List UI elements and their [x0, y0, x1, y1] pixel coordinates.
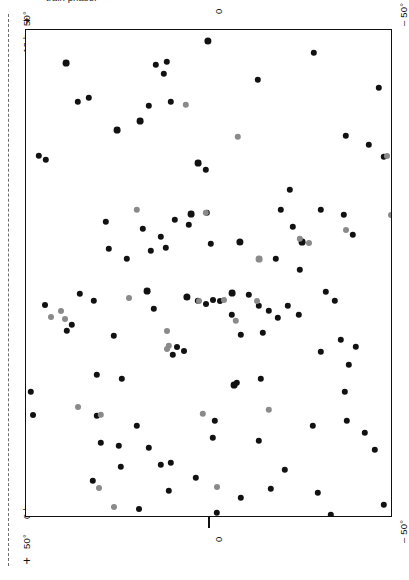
- scatter-point: [94, 372, 100, 378]
- scatter-point: [235, 134, 241, 140]
- scatter-point: [210, 297, 216, 303]
- scatter-point: [172, 217, 178, 223]
- scatter-point: [90, 478, 96, 484]
- axis-label-bottom-left-dec: 50°: [22, 534, 32, 549]
- scatter-point: [75, 404, 81, 410]
- scatter-point: [161, 71, 167, 77]
- scatter-point: [146, 445, 152, 451]
- scatter-point: [48, 314, 54, 320]
- scatter-point: [98, 440, 104, 446]
- scatter-point: [77, 291, 83, 297]
- scatter-point: [296, 312, 302, 318]
- scatter-point: [341, 212, 347, 218]
- scatter-point: [106, 246, 112, 252]
- scatter-point: [310, 423, 316, 429]
- scatter-point: [98, 412, 104, 418]
- scatter-point: [233, 318, 239, 324]
- scatter-point: [343, 227, 349, 233]
- scatter-point: [254, 298, 260, 304]
- scatter-point: [318, 207, 324, 213]
- scatter-point: [114, 127, 121, 134]
- axis-label-top-left-dec: 50°: [22, 11, 32, 26]
- scatter-point: [278, 207, 284, 213]
- scatter-point: [238, 332, 244, 338]
- scatter-point: [285, 303, 291, 309]
- scatter-point: [158, 234, 164, 240]
- scatter-point: [193, 475, 199, 481]
- scatter-point: [168, 460, 174, 466]
- scatter-point: [260, 330, 266, 336]
- scatter-point: [323, 289, 329, 295]
- scatter-point: [328, 512, 334, 517]
- scatter-point: [376, 85, 382, 91]
- scatter-point: [246, 292, 252, 298]
- scatter-point: [111, 333, 117, 339]
- scatter-point: [136, 506, 142, 512]
- scatter-point: [119, 376, 125, 382]
- scatter-point: [214, 484, 220, 490]
- scatter-point: [332, 298, 338, 304]
- axis-label-top-right-dec: – 50°: [399, 3, 409, 26]
- scatter-point: [275, 315, 281, 321]
- figure-caption-clipped: train phase.: [46, 0, 166, 4]
- scatter-point: [69, 322, 75, 328]
- scatter-point: [58, 308, 64, 314]
- scatter-point: [297, 267, 303, 273]
- scatter-point: [318, 349, 324, 355]
- tick-label-top-center: 0: [214, 9, 224, 14]
- scatter-point: [366, 142, 372, 148]
- scatter-point: [140, 226, 146, 232]
- scatter-plot-frame[interactable]: [25, 29, 392, 517]
- scatter-point: [266, 407, 272, 413]
- scatter-point: [164, 59, 170, 65]
- scatter-point: [221, 297, 227, 303]
- scatter-point: [181, 348, 187, 354]
- scatter-point: [158, 462, 164, 468]
- scatter-point: [388, 212, 392, 218]
- scatter-point: [116, 443, 122, 449]
- scatter-point: [43, 157, 49, 163]
- scatter-point: [63, 60, 70, 67]
- scatter-point: [168, 99, 174, 105]
- scatter-point: [118, 464, 124, 470]
- scatter-point: [75, 99, 81, 105]
- scatter-point: [266, 308, 272, 314]
- tick-bottom-center: [208, 517, 210, 528]
- scatter-point: [338, 337, 344, 343]
- scatter-point: [103, 219, 109, 225]
- scatter-point: [153, 62, 159, 68]
- scatter-point: [238, 495, 244, 501]
- scatter-point: [306, 240, 312, 246]
- scatter-point: [164, 328, 170, 334]
- scatter-point: [342, 389, 348, 395]
- scatter-point: [255, 77, 261, 83]
- scatter-point: [163, 245, 169, 251]
- scatter-point: [183, 293, 190, 300]
- scatter-point: [268, 486, 274, 492]
- scatter-point: [124, 256, 130, 262]
- scatter-point: [381, 502, 387, 508]
- scatter-point: [134, 207, 140, 213]
- scatter-point: [183, 102, 189, 108]
- scatter-point: [86, 95, 92, 101]
- scatter-point: [362, 430, 368, 436]
- scatter-point: [350, 232, 356, 238]
- scatter-point: [137, 118, 144, 125]
- scatter-point: [144, 288, 151, 295]
- tick-label-bottom-center: 0: [214, 537, 224, 542]
- scatter-point: [229, 290, 236, 297]
- scatter-point: [196, 298, 202, 304]
- scatter-point: [151, 306, 157, 312]
- scatter-point: [214, 510, 220, 516]
- scatter-point: [166, 488, 172, 494]
- axis-label-bottom-right-dec: – 50°: [399, 520, 409, 543]
- scatter-point: [256, 256, 263, 263]
- scatter-point: [126, 295, 132, 301]
- scatter-point: [200, 411, 206, 417]
- scatter-point: [164, 346, 170, 352]
- scatter-point: [315, 490, 321, 496]
- scatter-point: [344, 418, 350, 424]
- scatter-point: [287, 187, 293, 193]
- scatter-point: [372, 447, 378, 453]
- scatter-point: [30, 412, 36, 418]
